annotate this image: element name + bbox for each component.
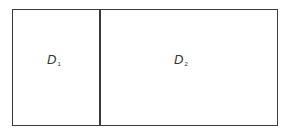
region-d1 (12, 9, 100, 126)
region-d2 (100, 9, 278, 126)
region-d1-label-main: D (47, 52, 56, 67)
region-d1-label: D1 (47, 52, 61, 67)
region-d1-label-subscript: 1 (57, 61, 60, 67)
region-d2-label: D2 (174, 52, 188, 67)
region-d2-label-main: D (174, 52, 183, 67)
region-d2-label-subscript: 2 (184, 61, 187, 67)
